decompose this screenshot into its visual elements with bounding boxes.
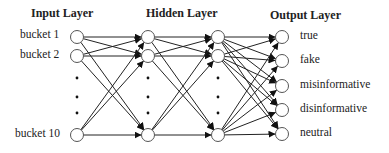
ellipsis-dots <box>76 77 220 115</box>
output-node <box>276 80 289 93</box>
output-node <box>276 31 289 44</box>
hidden2-node <box>212 50 225 63</box>
hidden1-node <box>142 31 155 44</box>
ellipsis-dot <box>217 77 220 80</box>
ellipsis-dot <box>76 112 79 115</box>
edge <box>224 112 276 132</box>
output-node <box>276 128 289 141</box>
edge <box>224 59 276 83</box>
ellipsis-dot <box>217 112 220 115</box>
edge <box>224 39 276 54</box>
edge <box>222 66 277 130</box>
hidden2-node <box>212 129 225 142</box>
edge <box>224 134 275 135</box>
output-node <box>276 55 289 68</box>
hidden1-node <box>142 50 155 63</box>
ellipsis-dot <box>147 112 150 115</box>
ellipsis-dot <box>76 77 79 80</box>
ellipsis-dot <box>217 96 220 99</box>
ellipsis-dot <box>147 77 150 80</box>
hidden1-node <box>142 129 155 142</box>
ellipsis-dot <box>76 96 79 99</box>
input-node <box>71 31 84 44</box>
edges <box>81 37 279 135</box>
hidden2-node <box>212 31 225 44</box>
edge <box>224 39 276 58</box>
ellipsis-dot <box>147 96 150 99</box>
neural-network-diagram: Input Layer Hidden Layer Output Layer bu… <box>0 0 389 153</box>
edge <box>223 90 277 131</box>
output-node <box>276 104 289 117</box>
input-node <box>71 129 84 142</box>
network-graph <box>0 0 389 153</box>
edge <box>223 60 277 106</box>
input-node <box>71 50 84 63</box>
